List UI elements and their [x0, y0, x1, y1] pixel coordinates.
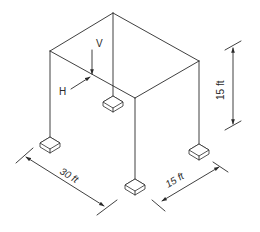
horizontal-load: H: [59, 77, 90, 97]
vertical-load: V: [92, 38, 103, 74]
beam-back-left: [50, 13, 113, 51]
length-dimension-label: 30 ft: [58, 165, 81, 185]
length-dimension-tick-right: [97, 200, 117, 215]
footing-right: [189, 144, 209, 160]
length-dimension: 30 ft: [16, 148, 117, 215]
columns: [50, 13, 199, 182]
footing-back: [103, 96, 123, 112]
height-dimension-label: 15 ft: [215, 80, 226, 100]
width-dimension: 15 ft: [152, 162, 228, 211]
frame-drawing: V H 15 ft 30 ft 15 ft: [0, 0, 260, 232]
length-dimension-line: [26, 157, 104, 206]
footing-left: [40, 137, 60, 153]
length-dimension-tick-left: [16, 148, 33, 163]
roof-beams: [50, 13, 199, 98]
horizontal-load-label: H: [59, 86, 66, 97]
height-dimension: 15 ft: [215, 41, 241, 130]
vertical-load-label: V: [96, 38, 103, 49]
width-dimension-tick-right: [213, 162, 228, 172]
width-dimension-label: 15 ft: [163, 170, 186, 190]
beam-back-right: [113, 13, 199, 61]
footing-front: [125, 179, 145, 195]
beam-front-right: [135, 61, 199, 98]
frame-diagram: V H 15 ft 30 ft 15 ft: [0, 0, 260, 232]
horizontal-load-arrow-icon: [71, 77, 90, 89]
width-dimension-tick-left: [152, 200, 165, 211]
